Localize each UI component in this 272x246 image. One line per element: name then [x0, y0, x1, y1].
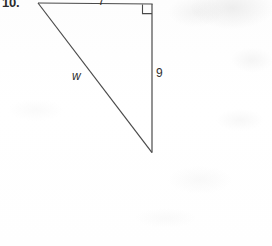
right-angle-mark-icon [143, 4, 153, 13]
right-triangle-figure [0, 0, 272, 246]
side-label-hypotenuse: w [72, 70, 81, 82]
side-label-top-leg: 7 [98, 0, 105, 7]
triangle-side-top-leg [38, 3, 153, 4]
triangle-side-hypotenuse [38, 3, 152, 153]
side-label-vertical-leg: 9 [156, 67, 163, 79]
worksheet-page: 10. 7 9 w [0, 0, 272, 246]
